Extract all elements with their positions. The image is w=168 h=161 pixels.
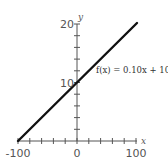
x-tick-label-zero: 0 [74,147,81,160]
y-tick-label-mid: 10 [60,77,74,90]
x-tick-label-max: 100 [126,147,147,160]
x-axis-label: x [141,136,146,146]
chart: -100 0 100 10 20 x y f(x) = 0.10x + 10 [0,0,168,161]
y-tick-label-max: 20 [60,18,74,31]
y-axis-label: y [77,12,84,22]
function-annotation: f(x) = 0.10x + 10 [96,65,168,75]
x-tick-label-min: -100 [6,147,31,160]
